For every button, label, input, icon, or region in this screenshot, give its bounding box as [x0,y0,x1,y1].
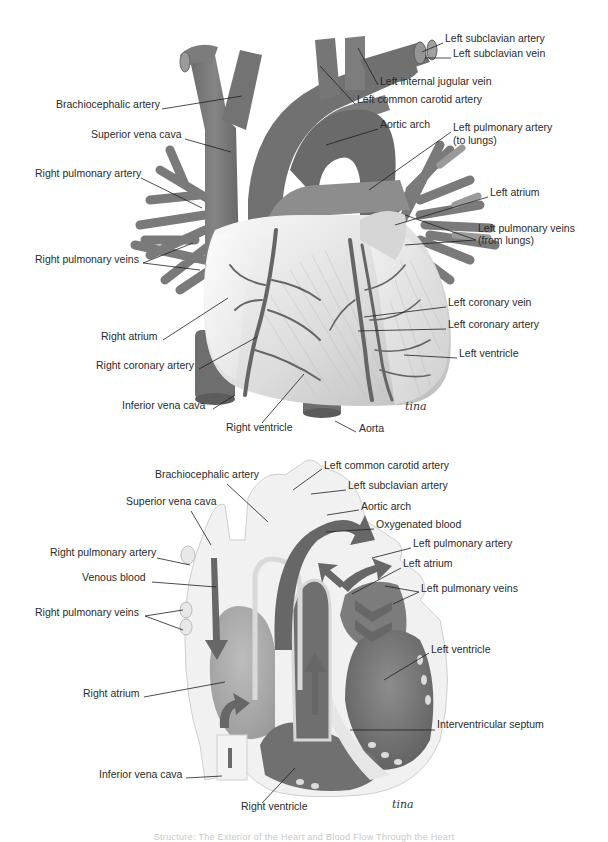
figure-caption: Structure: The Exterior of the Heart and… [0,832,608,842]
label-aortic-arch: Aortic arch [380,118,430,130]
label-left-coronary-artery: Left coronary artery [448,318,539,330]
label-oxygenated-blood: Oxygenated blood [376,518,461,530]
label-left-atrium: Left atrium [490,186,540,198]
label-left-pulmonary-veins: Left pulmonary veins [478,222,575,234]
label-left-pulmonary-artery: Left pulmonary artery [453,121,552,133]
label-left-ventricle: Left ventricle [459,347,519,359]
label-left-internal-jugular-vein: Left internal jugular vein [380,75,492,87]
label-left-pulmonary-veins-note: (from lungs) [478,234,534,246]
label-brachiocephalic-artery: Brachiocephalic artery [56,98,160,110]
label-left-pulmonary-veins-2: Left pulmonary veins [421,582,518,594]
label-venous-blood: Venous blood [82,571,146,583]
label-right-pulmonary-veins: Right pulmonary veins [35,253,139,265]
label-left-pulmonary-artery-2: Left pulmonary artery [413,537,512,549]
label-right-pulmonary-veins-2: Right pulmonary veins [35,606,139,618]
label-left-pulmonary-artery-note: (to lungs) [453,134,497,146]
label-left-common-carotid-artery-2: Left common carotid artery [324,459,449,471]
label-brachiocephalic-artery-2: Brachiocephalic artery [155,468,259,480]
label-right-coronary-artery: Right coronary artery [96,359,194,371]
blood-flow-illustration: tina [180,460,448,811]
artist-signature-2: tina [392,798,414,811]
label-inferior-vena-cava: Inferior vena cava [122,399,205,411]
label-right-atrium-2: Right atrium [83,687,140,699]
label-aortic-arch-2: Aortic arch [361,500,411,512]
label-left-subclavian-artery: Left subclavian artery [445,32,545,44]
label-left-common-carotid-artery: Left common carotid artery [357,93,482,105]
label-left-ventricle-2: Left ventricle [431,643,491,655]
label-right-ventricle-2: Right ventricle [241,800,308,812]
label-left-coronary-vein: Left coronary vein [448,296,531,308]
label-left-subclavian-artery-2: Left subclavian artery [348,479,448,491]
right-pulmonary-branches [135,150,210,290]
label-interventricular-septum: Interventricular septum [437,718,544,730]
label-superior-vena-cava-2: Superior vena cava [126,495,216,507]
artist-signature: tina [405,400,427,413]
label-right-ventricle: Right ventricle [226,421,293,433]
label-inferior-vena-cava-2: Inferior vena cava [99,768,182,780]
label-left-atrium-2: Left atrium [403,557,453,569]
label-right-pulmonary-artery: Right pulmonary artery [35,167,141,179]
label-aorta: Aorta [359,422,384,434]
heart-body: tina [204,211,451,413]
label-right-atrium: Right atrium [101,330,158,342]
label-superior-vena-cava: Superior vena cava [91,128,181,140]
label-right-pulmonary-artery-2: Right pulmonary artery [50,546,156,558]
label-left-subclavian-vein: Left subclavian vein [453,47,545,59]
